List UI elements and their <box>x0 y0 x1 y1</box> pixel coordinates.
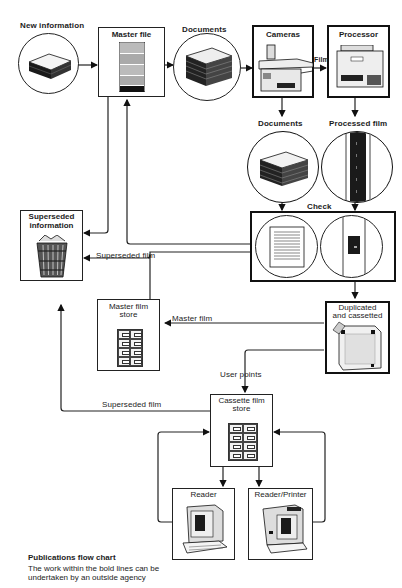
caption-title: Publications flow chart <box>28 553 116 562</box>
document-stack-icon <box>248 132 319 203</box>
reader-label: Reader <box>173 491 234 499</box>
film-strip-icon <box>322 132 393 203</box>
superseded-information-label-1: Superseded <box>21 213 82 221</box>
check-label: Check <box>307 202 332 211</box>
cameras-label: Cameras <box>254 31 312 39</box>
processor-label: Processor <box>329 31 388 39</box>
filing-cabinet-icon <box>119 42 145 92</box>
processed-film-node <box>321 131 393 203</box>
document-page-circle <box>255 215 318 278</box>
duplicated-label-2: and cassetted <box>327 312 388 320</box>
reader-printer-label: Reader/Printer <box>249 491 312 499</box>
filing-drawers-icon <box>228 423 258 461</box>
cassette-icon <box>331 320 387 372</box>
cassette-film-store-label-2: store <box>211 405 272 413</box>
waste-basket-icon <box>35 235 69 278</box>
documents-check-node <box>247 131 319 203</box>
superseded-film-edge-label-2: Superseded film <box>102 400 161 409</box>
paper-stack-icon <box>19 34 79 94</box>
document-stack-icon <box>174 34 241 101</box>
camera-machine-icon <box>257 43 313 95</box>
document-page-icon <box>256 216 318 278</box>
master-file-label: Master file <box>99 31 164 39</box>
film-frame-circle <box>320 215 383 278</box>
superseded-information-node: Superseded information <box>20 210 83 281</box>
new-information-node <box>18 33 79 94</box>
reader-node: Reader <box>172 488 235 560</box>
film-processor-icon <box>335 45 387 93</box>
new-information-label: New information <box>20 21 84 30</box>
master-file-node: Master file <box>98 27 165 97</box>
duplicated-cassetted-node: Duplicated and cassetted <box>325 301 390 374</box>
cameras-node: Cameras <box>252 25 314 98</box>
check-node <box>250 211 396 282</box>
cassette-film-store-node: Cassette film store <box>210 394 273 467</box>
processor-node: Processor <box>327 25 390 98</box>
documents-top-node <box>173 33 241 101</box>
master-film-store-label-2: store <box>98 311 159 319</box>
microfilm-reader-printer-icon <box>257 503 309 555</box>
master-film-edge-label: Master film <box>172 314 212 323</box>
reader-printer-node: Reader/Printer <box>248 488 313 560</box>
microfilm-reader-icon <box>179 503 229 555</box>
superseded-information-label-2: information <box>21 222 82 230</box>
processed-film-label: Processed film <box>329 119 387 128</box>
film-frame-icon <box>321 216 383 278</box>
caption-body: The work within the bold lines can be un… <box>28 564 198 582</box>
documents-check-label: Documents <box>258 119 302 128</box>
superseded-film-edge-label-1: Superseded film <box>96 251 155 260</box>
filing-drawers-icon <box>117 329 143 367</box>
user-points-edge-label: User points <box>220 370 262 379</box>
master-film-store-node: Master film store <box>97 299 160 371</box>
